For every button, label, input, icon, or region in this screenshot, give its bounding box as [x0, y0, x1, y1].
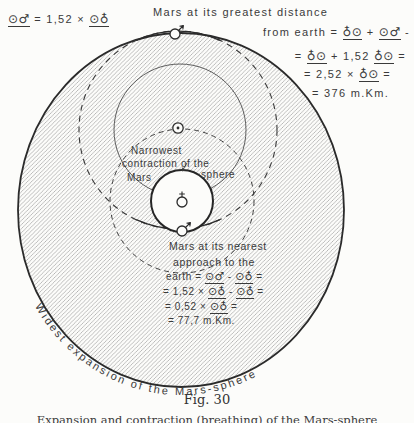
- narrowest-label-line-1: Narrowest: [131, 145, 182, 156]
- nearest-approach-line-2: = 1,52 × ⊙♁ - ⊙♁ =: [163, 286, 264, 298]
- nearest-approach-line-3: = 0,52 × ⊙♁ =: [165, 301, 237, 313]
- narrowest-label-line-4: sphere: [201, 169, 235, 180]
- figure-subtitle-caption: Expansion and contraction (breathing) of…: [0, 413, 414, 423]
- greatest-distance-line-1: from earth = ♁⊙ + ⊙♂ -: [263, 26, 410, 39]
- sun-mars-distance-formula: ⊙♂ = 1,52 × ⊙♁: [8, 13, 109, 26]
- greatest-distance-line-2: = ♁⊙ + 1,52 ♁⊙ =: [295, 50, 406, 63]
- nearest-approach-title-1: Mars at its nearest: [169, 241, 267, 253]
- figure-page: Widest expansion of the Mars-sphere ⊙♂ =…: [0, 0, 414, 423]
- nearest-approach-result: = 77,7 m.Km.: [168, 315, 235, 326]
- sun-icon: [173, 123, 183, 133]
- greatest-distance-line-3: = 2,52 × ♁⊙ =: [304, 68, 391, 81]
- nearest-approach-line-1: earth = ⊙♂ - ⊙♁ =: [166, 271, 263, 283]
- figure-number-caption: Fig. 30: [0, 392, 414, 407]
- greatest-distance-result: = 376 m.Km.: [312, 87, 389, 99]
- narrowest-label-line-2: contraction of the: [122, 158, 210, 169]
- greatest-distance-title: Mars at its greatest distance: [153, 6, 328, 18]
- nearest-approach-title-2: approach to the: [173, 257, 255, 269]
- narrowest-label-line-3: Mars: [127, 172, 152, 183]
- mars-sphere-diagram: Widest expansion of the Mars-sphere: [0, 0, 414, 423]
